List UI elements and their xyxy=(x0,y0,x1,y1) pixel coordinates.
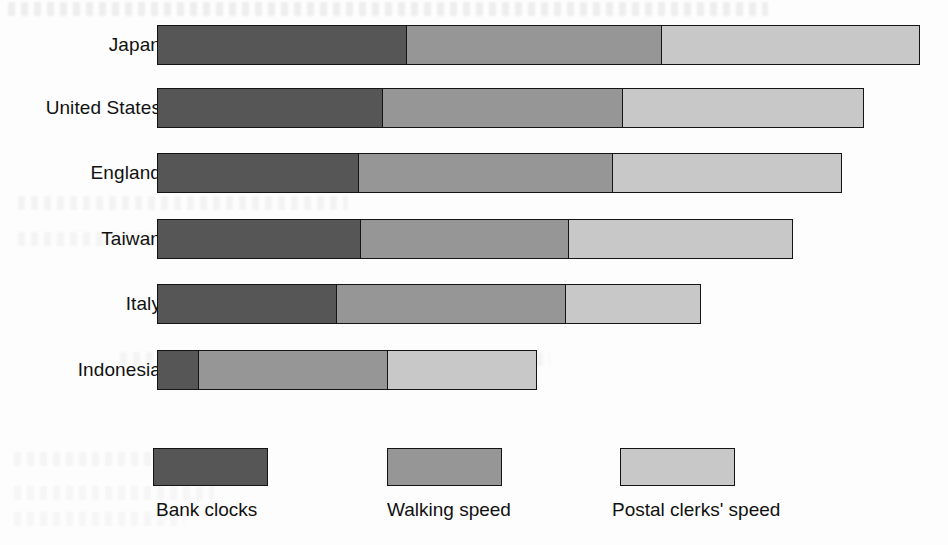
bar-segment-1 xyxy=(157,153,360,193)
bar-segment-2 xyxy=(198,350,388,390)
bar-segment-3 xyxy=(622,88,864,128)
bar-segment-1 xyxy=(157,25,408,65)
legend-item: Walking speed xyxy=(387,448,511,521)
category-label: United States xyxy=(46,97,161,119)
page-bleed-artifact xyxy=(8,2,768,16)
bar-segment-1 xyxy=(157,88,384,128)
page-bleed-artifact xyxy=(18,196,348,210)
bar-segment-3 xyxy=(565,284,701,324)
bar-row: Indonesia xyxy=(0,350,948,390)
stacked-bar xyxy=(157,153,842,193)
chart-legend: Bank clocksWalking speedPostal clerks' s… xyxy=(0,448,948,538)
bar-segment-1 xyxy=(157,284,338,324)
bar-segment-2 xyxy=(406,25,662,65)
stacked-bar xyxy=(157,350,537,390)
bar-segment-1 xyxy=(157,219,362,259)
stacked-bar xyxy=(157,284,701,324)
bar-segment-3 xyxy=(568,219,793,259)
category-label: Taiwan xyxy=(101,228,161,250)
legend-label: Walking speed xyxy=(387,499,511,521)
bar-segment-3 xyxy=(661,25,920,65)
bar-row: Taiwan xyxy=(0,219,948,259)
bar-row: United States xyxy=(0,88,948,128)
legend-item: Postal clerks' speed xyxy=(620,448,780,521)
legend-swatch xyxy=(387,448,502,486)
stacked-bar xyxy=(157,25,920,65)
bar-segment-3 xyxy=(387,350,537,390)
stacked-bar xyxy=(157,219,793,259)
bar-row: Italy xyxy=(0,284,948,324)
legend-label: Bank clocks xyxy=(156,499,268,521)
bar-segment-1 xyxy=(157,350,200,390)
bar-segment-2 xyxy=(360,219,569,259)
legend-label: Postal clerks' speed xyxy=(612,499,780,521)
stacked-bar xyxy=(157,88,864,128)
legend-swatch xyxy=(620,448,735,486)
category-label: Italy xyxy=(126,293,161,315)
bar-row: Japan xyxy=(0,25,948,65)
bar-segment-2 xyxy=(336,284,566,324)
bar-segment-3 xyxy=(612,153,842,193)
bar-segment-2 xyxy=(382,88,623,128)
bar-segment-2 xyxy=(358,153,613,193)
category-label: Indonesia xyxy=(78,359,161,381)
chart-canvas: JapanUnited StatesEnglandTaiwanItalyIndo… xyxy=(0,0,948,545)
category-label: England xyxy=(91,162,161,184)
category-label: Japan xyxy=(109,34,161,56)
legend-item: Bank clocks xyxy=(153,448,268,521)
bar-row: England xyxy=(0,153,948,193)
legend-swatch xyxy=(153,448,268,486)
